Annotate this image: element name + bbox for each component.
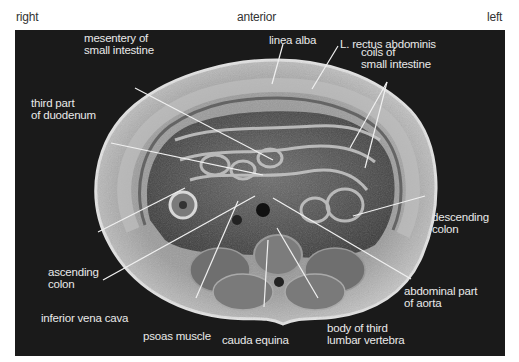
label-descending-colon: descending colon [432,211,489,235]
orientation-anterior-label: anterior [237,10,276,24]
orientation-left-label: left [487,10,502,24]
label-cauda-equina: cauda equina [222,334,289,346]
label-third-lumbar-vertebra: body of third lumbar vertebra [327,322,405,346]
label-abdominal-aorta: abdominal part of aorta [404,285,477,309]
label-third-part-duodenum: third part of duodenum [31,97,96,121]
label-inferior-vena-cava: inferior vena cava [41,312,128,324]
label-mesentery: mesentery of small intestine [84,32,154,56]
label-small-intestine-coils: coils of small intestine [361,46,431,70]
label-linea-alba: linea alba [269,34,316,46]
orientation-right-label: right [16,10,38,24]
label-ascending-colon: ascending colon [48,266,99,290]
ascending-colon-shape [170,192,196,218]
label-psoas-muscle: psoas muscle [143,330,211,342]
cross-section-figure: linea alba L. rectus abdominis mesentery… [15,30,505,356]
